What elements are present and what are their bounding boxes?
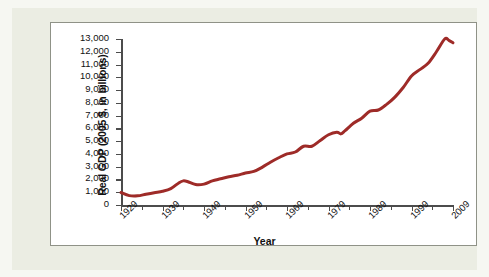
y-tick-label: 6,000 — [63, 121, 109, 132]
y-tick-label: 13,000 — [63, 32, 109, 43]
y-tick-label: 1,000 — [63, 185, 109, 196]
y-tick-label: 4,000 — [63, 147, 109, 158]
x-tick-minor — [349, 205, 350, 210]
y-tick-label: 11,000 — [63, 58, 109, 69]
y-tick-label: 7,000 — [63, 109, 109, 120]
chart-card: Real GDP (2005 $, in billions) 01,0002,0… — [50, 22, 477, 246]
x-axis-title: Year — [51, 235, 478, 247]
chart-page: Real GDP (2005 $, in billions) 01,0002,0… — [0, 0, 489, 277]
gdp-line-series — [121, 39, 453, 205]
figure-panel: Real GDP (2005 $, in billions) 01,0002,0… — [12, 8, 477, 270]
x-tick-minor — [266, 205, 267, 210]
x-tick-minor — [432, 205, 433, 210]
y-tick-label: 0 — [63, 198, 109, 209]
plot-area: 01,0002,0003,0004,0005,0006,0007,0008,00… — [121, 39, 453, 205]
x-tick-minor — [391, 205, 392, 210]
y-tick-label: 5,000 — [63, 134, 109, 145]
y-tick-label: 9,000 — [63, 83, 109, 94]
y-tick-label: 3,000 — [63, 160, 109, 171]
y-tick-label: 2,000 — [63, 172, 109, 183]
y-tick-label: 12,000 — [63, 45, 109, 56]
x-tick-minor — [225, 205, 226, 210]
y-tick-label: 10,000 — [63, 70, 109, 81]
x-tick-minor — [308, 205, 309, 210]
y-tick-label: 8,000 — [63, 96, 109, 107]
x-tick-minor — [183, 205, 184, 210]
x-tick-minor — [142, 205, 143, 210]
